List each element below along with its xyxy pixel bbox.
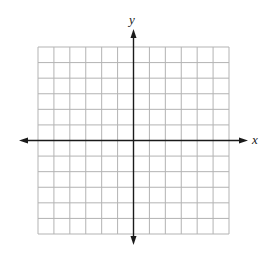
x-axis-left-arrow-icon: [19, 138, 28, 144]
y-axis-up-arrow-icon: [131, 29, 137, 38]
x-axis-label: x: [251, 132, 258, 147]
axes: [19, 29, 248, 245]
y-axis-down-arrow-icon: [131, 236, 137, 245]
x-axis-right-arrow-icon: [239, 138, 248, 144]
coordinate-plane: y x: [0, 0, 275, 254]
y-axis-label: y: [127, 12, 135, 27]
